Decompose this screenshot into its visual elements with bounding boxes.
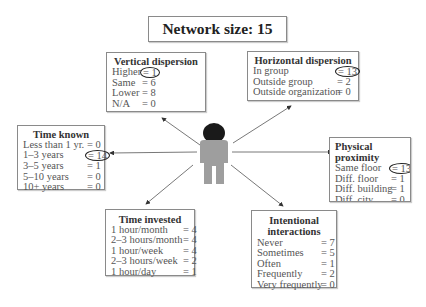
time-invested-box: Time invested 1 hour/month= 4 2–3 hours/… bbox=[105, 209, 195, 276]
list-item: Outside organization= 0 bbox=[253, 87, 358, 97]
time-known-box: Time known Less than 1 yr.= 0 1–3 years=… bbox=[17, 125, 105, 190]
physical-proximity-heading: Physical proximity bbox=[335, 141, 410, 163]
person-icon bbox=[200, 123, 228, 184]
list-item: Very frequently= 0 bbox=[257, 280, 336, 290]
physical-proximity-box: Physical proximity Same floor= 13 Diff. … bbox=[329, 137, 411, 202]
vertical-dispersion-box: Vertical dispersion Higher= 1 Same= 6 Lo… bbox=[106, 52, 206, 112]
list-item: Diff. city= 0 bbox=[335, 195, 410, 202]
list-item: 10+ years= 0 bbox=[23, 182, 104, 192]
list-item: 1 hour/day= 1 bbox=[111, 267, 194, 277]
arrow-to-vertical bbox=[162, 118, 200, 145]
network-size-label: Network size: 15 bbox=[162, 20, 272, 38]
arrow-to-intentional bbox=[231, 165, 283, 206]
network-size-title: Network size: 15 bbox=[148, 16, 287, 42]
arrow-to-time-known bbox=[110, 152, 197, 153]
arrow-to-horizontal bbox=[233, 106, 291, 143]
intentional-interactions-box: Intentional interactions Never= 7 Someti… bbox=[251, 210, 337, 288]
intentional-interactions-heading: Intentional bbox=[257, 215, 336, 226]
list-item: N/A= 0 bbox=[112, 99, 205, 109]
horizontal-dispersion-box: Horizontal dispersion In group= 13 Outsi… bbox=[247, 51, 359, 101]
arrow-to-time-invested bbox=[146, 165, 193, 204]
